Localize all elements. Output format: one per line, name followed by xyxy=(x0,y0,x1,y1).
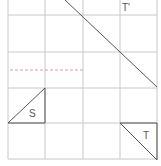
grid xyxy=(8,0,157,159)
diagonal-line xyxy=(65,0,157,87)
triangle-s xyxy=(8,88,45,123)
transformation-diagram: S T T' xyxy=(0,0,161,166)
triangle-t xyxy=(120,123,157,160)
label-t-prime: T' xyxy=(122,2,130,13)
label-s: S xyxy=(29,108,36,119)
label-t: T xyxy=(143,130,149,141)
